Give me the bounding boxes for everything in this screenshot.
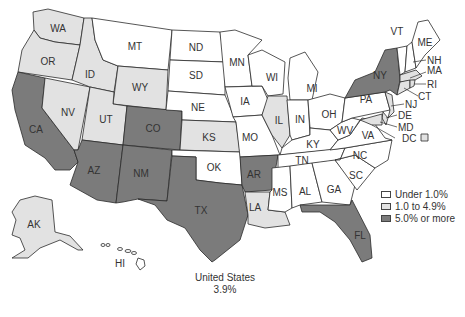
label-va: VA [362,130,375,141]
label-vt: VT [391,26,404,37]
label-de: DE [398,110,412,121]
label-nv: NV [61,107,75,118]
label-sd: SD [189,70,203,81]
label-ms: MS [273,187,288,198]
label-dc: DC [402,133,416,144]
label-me: ME [418,37,433,48]
legend-item-high: 5.0% or more [381,212,455,224]
label-az: AZ [88,165,101,176]
label-in: IN [295,114,305,125]
label-ny: NY [373,70,387,81]
label-ma: MA [427,65,442,76]
label-md: MD [398,122,414,133]
label-ut: UT [99,114,112,125]
label-ky: KY [306,139,320,150]
label-or: OR [41,56,56,67]
label-ia: IA [240,96,250,107]
label-nc: NC [353,150,367,161]
label-ar: AR [247,169,261,180]
legend-swatch-high [381,215,391,222]
label-nj: NJ [405,99,417,110]
label-ak: AK [27,219,41,230]
national-value: 3.9% [170,284,280,296]
legend: Under 1.0% 1.0 to 4.9% 5.0% or more [381,188,455,224]
label-tn: TN [295,155,308,166]
label-wy: WY [132,82,148,93]
label-ks: KS [202,132,216,143]
label-ri: RI [427,79,437,90]
legend-item-low: Under 1.0% [381,188,455,200]
label-co: CO [146,123,161,134]
label-ca: CA [29,124,43,135]
us-choropleth-map: WA OR CA NV ID MT WY UT AZ CO NM ND SD N… [0,0,465,317]
label-wv: WV [337,125,353,136]
label-fl: FL [354,230,366,241]
legend-item-mid: 1.0 to 4.9% [381,200,455,212]
label-al: AL [299,186,312,197]
label-sc: SC [349,170,363,181]
label-mi: MI [306,83,317,94]
legend-label: Under 1.0% [395,189,448,200]
label-mo: MO [242,132,258,143]
legend-swatch-mid [381,203,391,210]
label-ga: GA [327,184,342,195]
label-ok: OK [207,162,222,173]
label-pa: PA [360,94,373,105]
state-ak[interactable] [12,196,83,258]
label-tx: TX [195,205,208,216]
label-la: LA [249,202,262,213]
label-mn: MN [229,57,245,68]
legend-swatch-low [381,191,391,198]
label-wa: WA [50,23,66,34]
dc-swatch[interactable] [421,134,428,141]
national-total: United States 3.9% [170,272,280,296]
label-wi: WI [266,72,278,83]
label-ne: NE [191,102,205,113]
label-oh: OH [322,109,337,120]
label-mt: MT [128,41,142,52]
label-id: ID [85,69,95,80]
label-nm: NM [133,168,149,179]
legend-label: 5.0% or more [395,213,455,224]
label-hi: HI [115,258,125,269]
national-name: United States [170,272,280,284]
label-il: IL [275,115,284,126]
label-ct: CT [418,91,431,102]
label-nd: ND [189,42,203,53]
legend-label: 1.0 to 4.9% [395,201,446,212]
